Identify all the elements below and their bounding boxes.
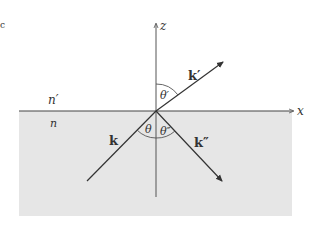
x-axis-label: x xyxy=(297,104,304,118)
lower-medium-label: n xyxy=(50,117,57,130)
transmitted-angle-label: θ′ xyxy=(160,89,170,102)
reflected-angle-label: θ″ xyxy=(160,125,172,138)
incident-vector-label: k xyxy=(109,133,119,148)
transmitted-vector-label: k′ xyxy=(188,68,201,83)
corner-mark: c xyxy=(0,20,5,30)
reflection-refraction-diagram: x z n′ n k k′ k″ θ′ θ θ″ c xyxy=(0,0,317,229)
reflected-vector-label: k″ xyxy=(194,135,209,150)
upper-medium-label: n′ xyxy=(48,93,59,107)
z-axis-label: z xyxy=(159,19,167,33)
incident-angle-label: θ xyxy=(145,123,152,136)
